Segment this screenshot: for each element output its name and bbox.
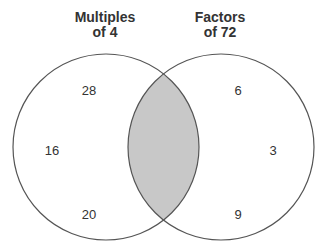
venn-diagram xyxy=(0,0,317,251)
set-a-element: 28 xyxy=(82,83,96,98)
set-b-element: 6 xyxy=(234,83,241,98)
set-b-element: 3 xyxy=(269,143,276,158)
set-a-element: 16 xyxy=(45,143,59,158)
set-a-element: 20 xyxy=(82,207,96,222)
intersection-shade xyxy=(128,54,314,240)
set-b-element: 9 xyxy=(234,207,241,222)
